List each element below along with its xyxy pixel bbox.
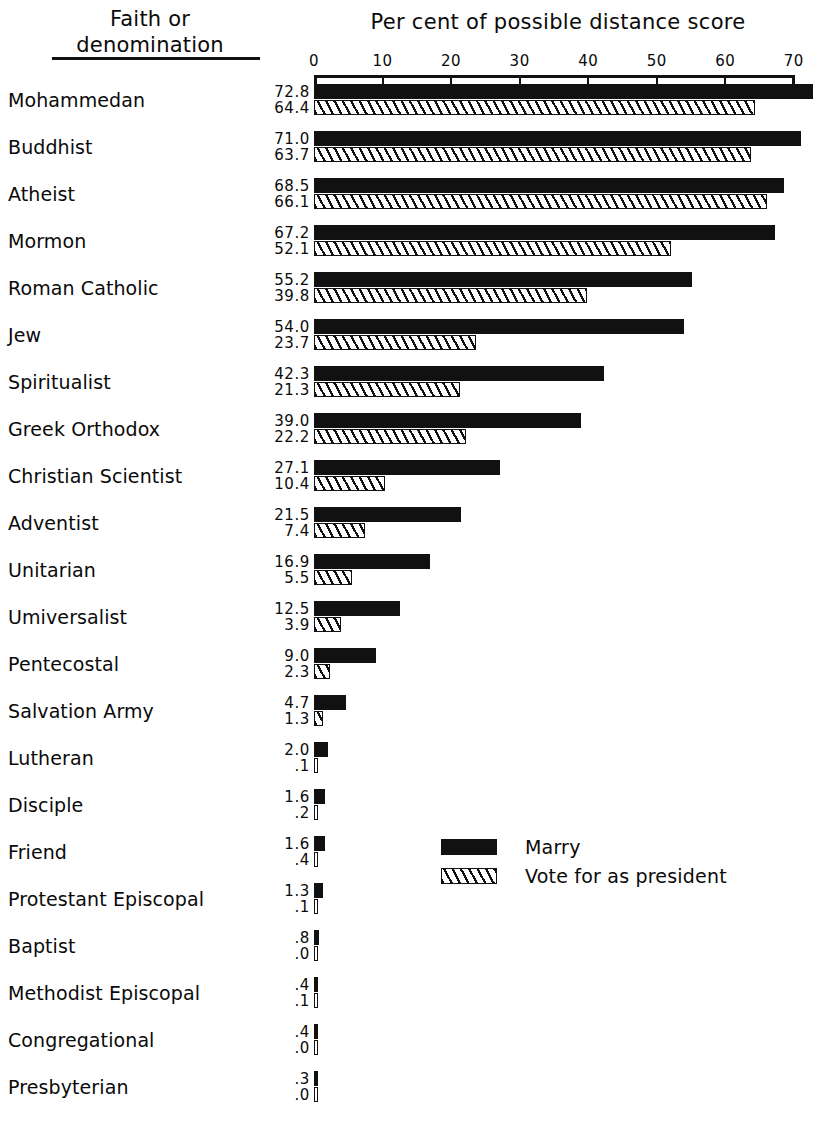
value-label-vote: 7.4 [284,524,310,539]
bar-vote [314,241,671,256]
chart-title: Per cent of possible distance score [318,10,798,34]
value-label-marry: 55.2 [274,273,310,288]
bar-row: Spiritualist42.321.3 [0,363,818,410]
bar-marry [314,84,813,99]
bar-vote [314,617,341,632]
bar-vote [314,570,352,585]
bar-row: Mohammedan72.864.4 [0,81,818,128]
bar-row: Presbyterian.3.0 [0,1068,818,1115]
value-label-marry: 12.5 [274,602,310,617]
value-label-vote: .4 [294,853,310,868]
value-label-vote: 52.1 [274,242,310,257]
bar-row: Pentecostal9.02.3 [0,645,818,692]
column-header-line-2: denomination [0,32,300,58]
value-label-marry: 1.6 [284,837,310,852]
bar-vote [314,147,751,162]
category-label: Roman Catholic [8,277,256,299]
category-label: Presbyterian [8,1076,256,1098]
bar-row: Adventist21.57.4 [0,504,818,551]
value-label-vote: 63.7 [274,148,310,163]
category-label: Jew [8,324,256,346]
bar-row: Baptist.8.0 [0,927,818,974]
bar-vote [314,335,476,350]
bar-vote [314,758,318,773]
bar-vote [314,1087,318,1102]
bar-marry [314,648,376,663]
chart-page: { "header": { "column_header_line1": "Fa… [0,0,818,1140]
value-label-marry: 1.3 [284,884,310,899]
legend-label-marry: Marry [525,836,581,858]
bar-vote [314,194,767,209]
value-label-vote: 1.3 [284,712,310,727]
bar-marry [314,319,684,334]
bar-marry [314,789,325,804]
value-label-vote: 2.3 [284,665,310,680]
value-label-vote: 22.2 [274,430,310,445]
category-label: Umiversalist [8,606,256,628]
bar-marry [314,930,319,945]
value-label-marry: 68.5 [274,179,310,194]
value-label-marry: .4 [294,978,310,993]
value-label-vote: .1 [294,994,310,1009]
bar-row: Methodist Episcopal.4.1 [0,974,818,1021]
category-label: Baptist [8,935,256,957]
value-label-vote: .0 [294,1041,310,1056]
value-label-marry: 67.2 [274,226,310,241]
bar-marry [314,883,323,898]
bar-row: Mormon67.252.1 [0,222,818,269]
bar-vote [314,382,460,397]
column-header: Faith or denomination [0,6,300,58]
bar-row: Lutheran2.0.1 [0,739,818,786]
value-label-marry: 72.8 [274,85,310,100]
bar-marry [314,742,328,757]
bar-vote [314,805,318,820]
category-label: Disciple [8,794,256,816]
value-label-marry: 71.0 [274,132,310,147]
category-label: Mormon [8,230,256,252]
value-label-marry: 27.1 [274,461,310,476]
category-label: Atheist [8,183,256,205]
bar-row: Christian Scientist27.110.4 [0,457,818,504]
value-label-marry: 16.9 [274,555,310,570]
category-label: Lutheran [8,747,256,769]
bar-vote [314,852,318,867]
bar-row: Buddhist71.063.7 [0,128,818,175]
bar-vote [314,899,318,914]
bar-row: Roman Catholic55.239.8 [0,269,818,316]
column-header-underline [52,57,260,60]
bar-vote [314,100,755,115]
bar-vote [314,993,318,1008]
axis-tick-label-50: 50 [647,52,667,70]
bar-marry [314,366,604,381]
bar-vote [314,664,330,679]
bar-marry [314,272,692,287]
bar-vote [314,946,318,961]
axis-tick-label-70: 70 [784,52,804,70]
axis-tick-label-0: 0 [309,52,319,70]
value-label-vote: 23.7 [274,336,310,351]
legend-swatch-solid-icon [441,839,497,855]
bar-marry [314,695,346,710]
column-header-line-1: Faith or [0,6,300,32]
axis-tick-label-40: 40 [578,52,598,70]
category-label: Methodist Episcopal [8,982,256,1004]
bar-marry [314,225,775,240]
value-label-marry: 1.6 [284,790,310,805]
bar-row: Atheist68.566.1 [0,175,818,222]
category-label: Greek Orthodox [8,418,256,440]
axis-tick-label-20: 20 [441,52,461,70]
value-label-marry: 54.0 [274,320,310,335]
value-label-marry: .4 [294,1025,310,1040]
category-label: Congregational [8,1029,256,1051]
bar-marry [314,178,784,193]
value-label-marry: 2.0 [284,743,310,758]
legend-label-vote: Vote for as president [525,865,727,887]
category-label: Protestant Episcopal [8,888,256,910]
axis-tick-label-30: 30 [510,52,530,70]
bar-vote [314,523,365,538]
value-label-marry: .3 [294,1072,310,1087]
value-label-vote: .0 [294,947,310,962]
value-label-vote: 5.5 [284,571,310,586]
bar-marry [314,554,430,569]
category-label: Spiritualist [8,371,256,393]
